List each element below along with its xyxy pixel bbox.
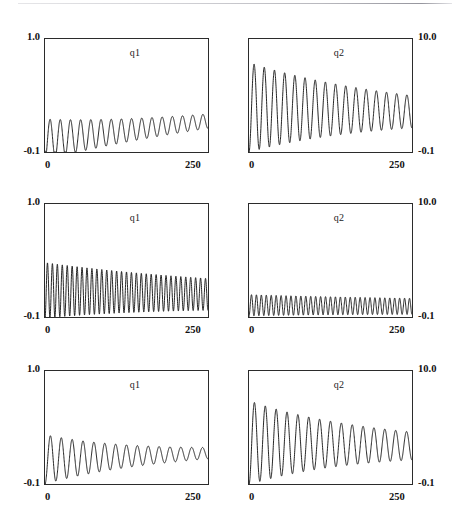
x-axis-min-label-row2-q1: 0 xyxy=(45,324,50,335)
waveform-canvas-row3-q1 xyxy=(45,371,208,484)
x-axis-max-label-row1-q1: 250 xyxy=(185,159,201,170)
y-axis-max-label-row3-q2: 10.0 xyxy=(418,363,436,374)
waveform-canvas-row1-q1 xyxy=(45,39,208,152)
plot-frame-row3-q1 xyxy=(44,370,209,485)
waveform-canvas-row1-q2 xyxy=(249,39,412,152)
x-axis-min-label-row1-q2: 0 xyxy=(249,159,254,170)
x-axis-min-label-row1-q1: 0 xyxy=(45,159,50,170)
plot-frame-row3-q2 xyxy=(248,370,413,485)
plot-frame-row1-q1 xyxy=(44,38,209,153)
waveform-line-row3-q2 xyxy=(249,403,412,485)
x-axis-min-label-row2-q2: 0 xyxy=(249,324,254,335)
plot-frame-row1-q2 xyxy=(248,38,413,153)
x-axis-max-label-row3-q2: 250 xyxy=(389,491,405,502)
x-axis-min-label-row3-q1: 0 xyxy=(45,491,50,502)
plot-frame-row2-q1 xyxy=(44,203,209,318)
plot-frame-row2-q2 xyxy=(248,203,413,318)
waveform-canvas-row2-q2 xyxy=(249,204,412,317)
y-axis-min-label-row2-q1: -0.1 xyxy=(2,310,40,321)
x-axis-max-label-row2-q2: 250 xyxy=(389,324,405,335)
scan-artifact-line xyxy=(18,3,452,4)
x-axis-max-label-row2-q1: 250 xyxy=(185,324,201,335)
y-axis-min-label-row2-q2: -0.1 xyxy=(418,310,435,321)
y-axis-min-label-row1-q1: -0.1 xyxy=(2,145,40,156)
figure-canvas: q11.0-0.10250q210.0-0.10250q11.0-0.10250… xyxy=(0,0,459,519)
waveform-canvas-row2-q1 xyxy=(45,204,208,317)
x-axis-max-label-row1-q2: 250 xyxy=(389,159,405,170)
x-axis-max-label-row3-q1: 250 xyxy=(185,491,201,502)
waveform-line-row2-q2 xyxy=(249,295,412,317)
y-axis-min-label-row3-q1: -0.1 xyxy=(2,477,40,488)
series-label-row3-q2: q2 xyxy=(334,379,344,390)
x-axis-min-label-row3-q2: 0 xyxy=(249,491,254,502)
y-axis-max-label-row1-q1: 1.0 xyxy=(2,31,40,42)
y-axis-max-label-row2-q2: 10.0 xyxy=(418,196,436,207)
y-axis-max-label-row2-q1: 1.0 xyxy=(2,196,40,207)
series-label-row1-q1: q1 xyxy=(130,47,140,58)
waveform-line-row3-q1 xyxy=(45,436,208,484)
y-axis-min-label-row1-q2: -0.1 xyxy=(418,145,435,156)
y-axis-max-label-row1-q2: 10.0 xyxy=(418,31,436,42)
waveform-line-row2-q1 xyxy=(45,263,208,317)
series-label-row3-q1: q1 xyxy=(130,379,140,390)
y-axis-max-label-row3-q1: 1.0 xyxy=(2,363,40,374)
series-label-row2-q1: q1 xyxy=(130,212,140,223)
waveform-line-row1-q1 xyxy=(45,114,208,152)
waveform-canvas-row3-q2 xyxy=(249,371,412,484)
y-axis-min-label-row3-q2: -0.1 xyxy=(418,477,435,488)
waveform-line-row1-q2 xyxy=(249,64,412,152)
series-label-row1-q2: q2 xyxy=(334,47,344,58)
series-label-row2-q2: q2 xyxy=(334,212,344,223)
